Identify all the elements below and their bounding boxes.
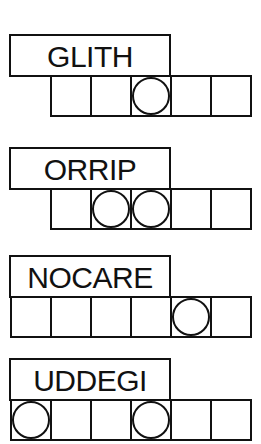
puzzle-1: GLITH	[0, 34, 261, 124]
circle-marker-icon	[12, 401, 50, 439]
letter-cell[interactable]	[90, 188, 132, 230]
letter-cell[interactable]	[130, 75, 172, 117]
scrambled-word: ORRIP	[11, 149, 169, 188]
circle-marker-icon	[132, 77, 170, 115]
letter-cell[interactable]	[130, 188, 172, 230]
circle-marker-icon	[132, 190, 170, 228]
letter-cell[interactable]	[50, 296, 92, 338]
answer-row	[50, 75, 252, 115]
answer-row	[50, 188, 252, 228]
answer-row	[10, 296, 252, 336]
puzzle-4: UDDEGI	[0, 358, 261, 444]
letter-cell[interactable]	[210, 399, 252, 441]
letter-cell[interactable]	[90, 75, 132, 117]
letter-cell[interactable]	[90, 296, 132, 338]
letter-cell[interactable]	[210, 296, 252, 338]
scrambled-word: UDDEGI	[11, 360, 169, 399]
letter-cell[interactable]	[10, 296, 52, 338]
letter-cell[interactable]	[170, 296, 212, 338]
letter-cell[interactable]	[50, 188, 92, 230]
circle-marker-icon	[92, 190, 130, 228]
letter-cell[interactable]	[210, 75, 252, 117]
letter-cell[interactable]	[170, 75, 212, 117]
puzzle-2: ORRIP	[0, 147, 261, 237]
letter-cell[interactable]	[130, 296, 172, 338]
letter-cell[interactable]	[90, 399, 132, 441]
letter-cell[interactable]	[170, 399, 212, 441]
letter-cell[interactable]	[210, 188, 252, 230]
scrambled-word: GLITH	[11, 36, 169, 75]
scrambled-word-box: NOCARE	[9, 255, 171, 298]
answer-row	[10, 399, 252, 439]
letter-cell[interactable]	[50, 399, 92, 441]
letter-cell[interactable]	[50, 75, 92, 117]
letter-cell[interactable]	[170, 188, 212, 230]
circle-marker-icon	[172, 298, 210, 336]
scrambled-word: NOCARE	[11, 257, 169, 296]
scrambled-word-box: GLITH	[9, 34, 171, 77]
puzzle-3: NOCARE	[0, 255, 261, 345]
letter-cell[interactable]	[10, 399, 52, 441]
scrambled-word-box: UDDEGI	[9, 358, 171, 401]
circle-marker-icon	[132, 401, 170, 439]
letter-cell[interactable]	[130, 399, 172, 441]
scrambled-word-box: ORRIP	[9, 147, 171, 190]
